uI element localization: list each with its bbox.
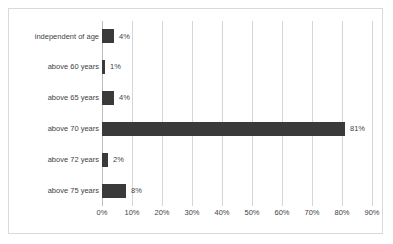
category-label: above 72 years (48, 144, 99, 175)
bar-value-label: 4% (119, 33, 130, 41)
x-tick-label: 90% (364, 209, 379, 217)
x-axis-tick-labels: 0%10%20%30%40%50%60%70%80%90% (102, 209, 372, 223)
bar (102, 60, 105, 74)
bar-value-label: 1% (110, 63, 121, 71)
x-tick-label: 0% (97, 209, 108, 217)
bar (102, 29, 114, 43)
category-label: above 60 years (48, 52, 99, 83)
category-axis-labels: independent of ageabove 60 yearsabove 65… (17, 21, 99, 206)
x-tick-label: 60% (274, 209, 289, 217)
bar-value-label: 2% (113, 156, 124, 164)
bar-row: 2% (102, 144, 372, 175)
bar (102, 153, 108, 167)
bar-row: 4% (102, 83, 372, 114)
x-tick-label: 20% (154, 209, 169, 217)
bar-row: 4% (102, 21, 372, 52)
x-tick-label: 70% (304, 209, 319, 217)
category-label: above 75 years (48, 175, 99, 206)
x-tick-label: 40% (214, 209, 229, 217)
bar-row: 81% (102, 114, 372, 145)
bar-series: 4%1%4%81%2%8% (102, 21, 372, 206)
x-tick-label: 50% (244, 209, 259, 217)
x-tick-label: 10% (124, 209, 139, 217)
bar-row: 8% (102, 175, 372, 206)
bar (102, 122, 345, 136)
x-tick-label: 80% (334, 209, 349, 217)
bar (102, 184, 126, 198)
plot-area: 4%1%4%81%2%8% (102, 21, 372, 206)
bar-row: 1% (102, 52, 372, 83)
category-label: above 70 years (48, 114, 99, 145)
gridline-90pct (372, 21, 373, 206)
chart-frame: independent of ageabove 60 yearsabove 65… (8, 8, 383, 234)
bar-value-label: 81% (350, 125, 365, 133)
bar-value-label: 8% (131, 187, 142, 195)
category-label: above 65 years (48, 83, 99, 114)
bar (102, 91, 114, 105)
x-tick-label: 30% (184, 209, 199, 217)
category-label: independent of age (35, 21, 99, 52)
bar-value-label: 4% (119, 94, 130, 102)
